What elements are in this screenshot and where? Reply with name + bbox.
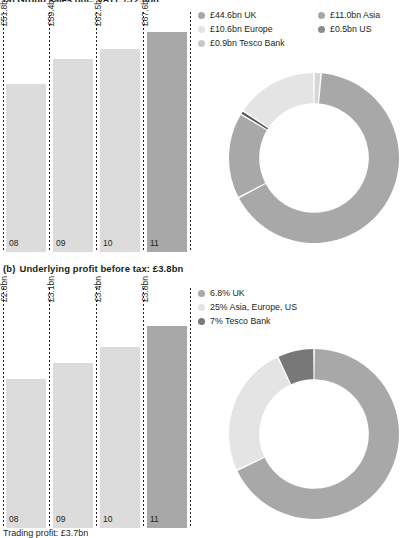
sales-legend-item[interactable]: £11.0bn Asia <box>318 10 402 21</box>
bar-10[interactable] <box>100 49 140 252</box>
profit-legend-item[interactable]: 6.8% UK <box>198 288 402 299</box>
donut-segment-tesco-bank[interactable] <box>315 73 321 103</box>
legend-label: £10.6bn Europe <box>210 24 273 35</box>
bar-value-label-09: £3.1bn <box>46 276 56 302</box>
bar-year-label-11: 11 <box>150 238 159 248</box>
bar-year-label-11: 11 <box>150 514 159 524</box>
donut-segment-asia[interactable] <box>229 115 267 197</box>
legend-swatch-icon <box>198 290 205 297</box>
legend-label: £44.6bn UK <box>210 10 256 21</box>
bar-value-label-11: £67.6bn <box>140 0 150 26</box>
bar-value-label-09: £59.4bn <box>46 0 56 26</box>
bar-10[interactable] <box>100 347 140 528</box>
legend-swatch-icon <box>318 26 325 33</box>
bar-value-label-10: £62.5bn <box>93 0 103 26</box>
bar-divider <box>3 288 4 528</box>
sales-legend: £44.6bn UK£10.6bn Europe£0.9bn Tesco Ban… <box>198 10 402 56</box>
bar-column-09[interactable]: £59.4bn09 <box>50 12 97 252</box>
profit-donut-chart <box>228 348 400 520</box>
chart-page: (a) Group sales (inc. VAT): £72.0bn £51.… <box>0 0 404 538</box>
bar-column-08[interactable]: £2.8bn08 <box>3 288 50 528</box>
section-b-heading: Underlying profit before tax: £3.8bn <box>19 263 183 274</box>
section-b-marker: (b) <box>3 263 15 274</box>
legend-label: £11.0bn Asia <box>330 10 380 21</box>
bar-11[interactable] <box>147 32 187 252</box>
bar-divider <box>190 288 191 528</box>
bar-value-label-10: £3.4bn <box>93 276 103 302</box>
bar-year-label-08: 08 <box>9 238 18 248</box>
bar-column-09[interactable]: £3.1bn09 <box>50 288 97 528</box>
legend-label: 25% Asia, Europe, US <box>210 302 297 313</box>
profit-legend-item[interactable]: 25% Asia, Europe, US <box>198 302 402 313</box>
legend-swatch-icon <box>198 318 205 325</box>
sales-legend-item[interactable]: £0.9bn Tesco Bank <box>198 38 314 49</box>
bar-column-11[interactable]: £67.6bn11 <box>144 12 191 252</box>
sales-legend-item[interactable]: £0.5bn US <box>318 24 402 35</box>
bar-value-label-11: £3.8bn <box>140 276 150 302</box>
bar-divider <box>190 12 191 252</box>
sales-bar-chart: £51.8bn08£59.4bn09£62.5bn10£67.6bn11 <box>3 12 193 252</box>
profit-bar-chart: £2.8bn08£3.1bn09£3.4bn10£3.8bn11 <box>3 288 193 528</box>
legend-label: £0.9bn Tesco Bank <box>210 38 285 49</box>
legend-label: 7% Tesco Bank <box>210 316 270 327</box>
legend-swatch-icon <box>198 304 205 311</box>
bar-value-label-08: £51.8bn <box>0 0 9 26</box>
bar-year-label-09: 09 <box>56 514 65 524</box>
sales-legend-item[interactable]: £10.6bn Europe <box>198 24 314 35</box>
profit-legend: 6.8% UK25% Asia, Europe, US7% Tesco Bank <box>198 288 402 334</box>
bar-year-label-10: 10 <box>103 238 112 248</box>
sales-donut-chart <box>228 72 400 244</box>
bar-column-08[interactable]: £51.8bn08 <box>3 12 50 252</box>
bar-column-10[interactable]: £62.5bn10 <box>97 12 144 252</box>
bar-year-label-10: 10 <box>103 514 112 524</box>
bar-09[interactable] <box>53 363 93 528</box>
donut-svg <box>228 72 400 244</box>
clipped-bottom-caption: Trading profit: £3.7bn <box>3 528 88 538</box>
donut-segment-asia-europe-us[interactable] <box>229 357 290 469</box>
bar-divider <box>3 12 4 252</box>
legend-swatch-icon <box>198 12 205 19</box>
bar-08[interactable] <box>6 84 46 252</box>
bar-year-label-08: 08 <box>9 514 18 524</box>
clipped-top-title: (a) Group sales (inc. VAT): £72.0bn <box>3 0 159 2</box>
bar-11[interactable] <box>147 326 187 528</box>
section-b-title: (b)Underlying profit before tax: £3.8bn <box>3 263 184 274</box>
legend-label: 6.8% UK <box>210 288 245 299</box>
bar-value-label-08: £2.8bn <box>0 276 9 302</box>
bar-column-10[interactable]: £3.4bn10 <box>97 288 144 528</box>
profit-legend-item[interactable]: 7% Tesco Bank <box>198 316 402 327</box>
bar-09[interactable] <box>53 59 93 252</box>
legend-swatch-icon <box>318 12 325 19</box>
sales-legend-item[interactable]: £44.6bn UK <box>198 10 314 21</box>
legend-swatch-icon <box>198 26 205 33</box>
bar-08[interactable] <box>6 379 46 528</box>
bar-year-label-09: 09 <box>56 238 65 248</box>
donut-svg <box>228 348 400 520</box>
legend-label: £0.5bn US <box>330 24 372 35</box>
legend-swatch-icon <box>198 40 205 47</box>
bar-column-11[interactable]: £3.8bn11 <box>144 288 191 528</box>
